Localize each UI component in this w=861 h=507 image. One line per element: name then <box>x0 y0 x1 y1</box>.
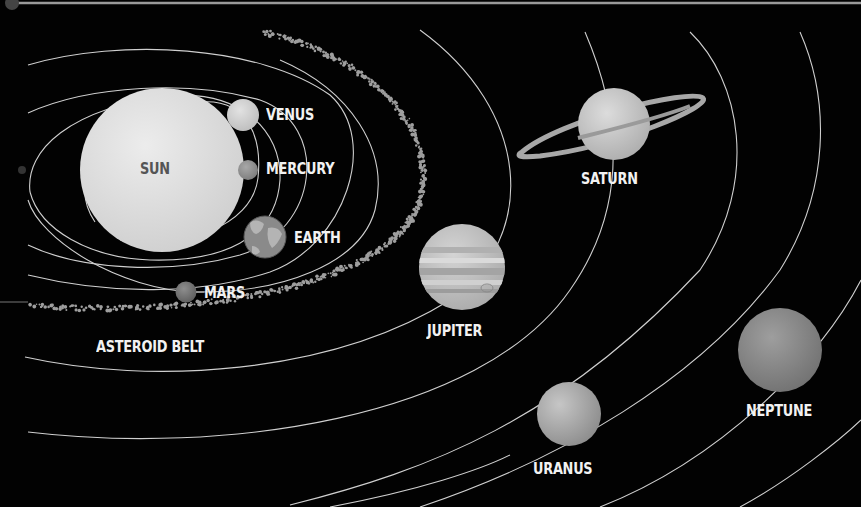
asteroid <box>279 34 281 36</box>
uranus[interactable] <box>537 382 601 446</box>
asteroid <box>169 303 172 306</box>
label-mercury: MERCURY <box>266 160 334 178</box>
asteroid <box>330 53 334 57</box>
asteroid <box>122 305 125 308</box>
venus[interactable] <box>227 99 259 131</box>
asteroid <box>158 303 162 307</box>
asteroid <box>420 171 422 173</box>
asteroid <box>319 48 322 51</box>
asteroid <box>194 304 196 306</box>
asteroid <box>346 62 348 64</box>
asteroid <box>70 305 72 307</box>
asteroid <box>288 286 292 290</box>
asteroid <box>379 90 381 92</box>
asteroid <box>112 308 114 310</box>
asteroid <box>115 308 118 311</box>
asteroid <box>409 128 413 132</box>
asteroid <box>254 292 257 295</box>
asteroid <box>409 118 411 120</box>
asteroid <box>371 81 374 84</box>
asteroid <box>375 251 378 254</box>
asteroid <box>295 287 299 291</box>
asteroid <box>171 307 173 309</box>
asteroid <box>75 305 78 308</box>
saturn[interactable] <box>519 88 704 160</box>
asteroid <box>81 306 83 308</box>
orbit-lower-1 <box>330 455 510 507</box>
asteroid <box>135 306 138 309</box>
asteroid <box>415 206 417 208</box>
asteroid <box>258 295 261 298</box>
asteroid <box>389 100 392 103</box>
asteroid <box>300 282 302 284</box>
asteroid <box>32 305 36 309</box>
asteroid <box>408 125 411 128</box>
jupiter[interactable] <box>418 224 508 310</box>
diagram-canvas <box>0 0 861 507</box>
asteroid <box>354 69 356 71</box>
asteroid <box>399 233 402 236</box>
asteroid <box>363 76 367 80</box>
asteroid <box>424 169 428 173</box>
asteroid <box>423 177 425 179</box>
asteroid <box>292 283 294 285</box>
asteroid <box>320 276 322 278</box>
asteroid <box>352 66 355 69</box>
asteroid <box>338 268 341 271</box>
asteroid <box>367 77 369 79</box>
label-sun: SUN <box>140 160 170 178</box>
asteroid <box>422 157 424 159</box>
asteroid <box>404 225 407 228</box>
asteroid <box>413 208 416 211</box>
asteroid <box>315 275 319 279</box>
asteroid <box>264 33 267 36</box>
asteroid <box>393 240 396 243</box>
asteroid <box>173 303 176 306</box>
asteroid <box>146 306 149 309</box>
asteroid <box>399 236 401 238</box>
neptune[interactable] <box>738 308 822 392</box>
earth[interactable] <box>244 216 286 258</box>
label-uranus: URANUS <box>533 460 592 478</box>
orbit-uranus-arc <box>290 32 737 505</box>
asteroid <box>73 305 75 307</box>
mercury[interactable] <box>238 160 258 180</box>
asteroid <box>118 305 121 308</box>
asteroid <box>344 265 346 267</box>
asteroid <box>421 169 424 172</box>
asteroid <box>414 129 416 131</box>
asteroid <box>368 80 371 83</box>
asteroid <box>82 308 85 311</box>
asteroid <box>285 35 287 37</box>
asteroid <box>181 305 183 307</box>
asteroid <box>75 308 78 311</box>
asteroid <box>41 305 43 307</box>
asteroid <box>348 265 350 267</box>
asteroid <box>420 179 422 181</box>
asteroid <box>263 290 266 293</box>
asteroid <box>298 282 300 284</box>
label-earth: EARTH <box>294 229 340 247</box>
asteroid <box>367 258 370 261</box>
asteroid <box>202 303 204 305</box>
asteroid <box>406 218 409 221</box>
asteroid <box>356 259 358 261</box>
asteroid <box>348 67 350 69</box>
asteroid <box>422 190 426 194</box>
asteroid <box>345 267 347 269</box>
asteroid <box>356 74 359 77</box>
asteroid <box>47 306 50 309</box>
asteroid <box>360 71 363 74</box>
asteroid <box>305 279 307 281</box>
asteroid <box>385 244 388 247</box>
asteroid <box>156 307 159 310</box>
asteroid <box>403 229 406 232</box>
asteroid <box>281 286 283 288</box>
asteroid <box>378 252 380 254</box>
asteroid <box>417 141 420 144</box>
asteroid <box>250 296 253 299</box>
asteroid <box>271 33 274 36</box>
asteroid <box>39 304 41 306</box>
asteroid <box>415 144 417 146</box>
mars[interactable] <box>176 282 197 303</box>
